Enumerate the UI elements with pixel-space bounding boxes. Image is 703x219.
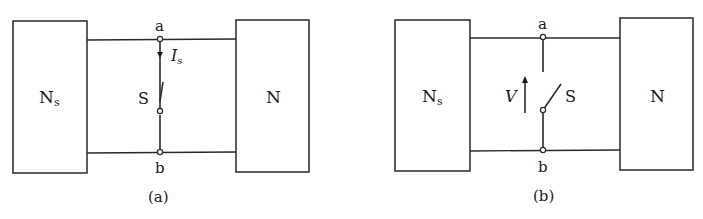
caption-b: (b) <box>533 187 554 205</box>
voltage-label: V <box>505 87 518 106</box>
switch-pivot-a <box>157 108 162 113</box>
node-b-terminal-b <box>540 147 545 152</box>
node-b-label-b: b <box>538 158 548 176</box>
voltage-arrow-icon <box>522 76 528 83</box>
current-label: Is <box>170 46 182 66</box>
panel-a: Ns N a b S Is (a) <box>13 17 309 206</box>
node-a-terminal-b <box>540 34 545 39</box>
switch-blade-b <box>543 84 561 110</box>
caption-a: (a) <box>148 188 169 206</box>
circuit-figure: Ns N a b S Is (a) Ns N <box>0 0 703 219</box>
panel-b: Ns N a b S V (b) <box>395 15 693 205</box>
node-a-terminal-a <box>157 36 162 41</box>
switch-label-b: S <box>565 87 576 106</box>
load-network-label-b: N <box>650 86 665 106</box>
node-b-terminal-a <box>157 149 162 154</box>
node-a-label-b: a <box>538 15 547 33</box>
switch-pivot-b <box>540 107 545 112</box>
node-a-label-a: a <box>155 17 164 35</box>
load-network-label-a: N <box>266 87 281 107</box>
current-arrow-icon <box>157 52 163 58</box>
switch-label-a: S <box>138 89 149 108</box>
node-b-label-a: b <box>155 159 165 177</box>
